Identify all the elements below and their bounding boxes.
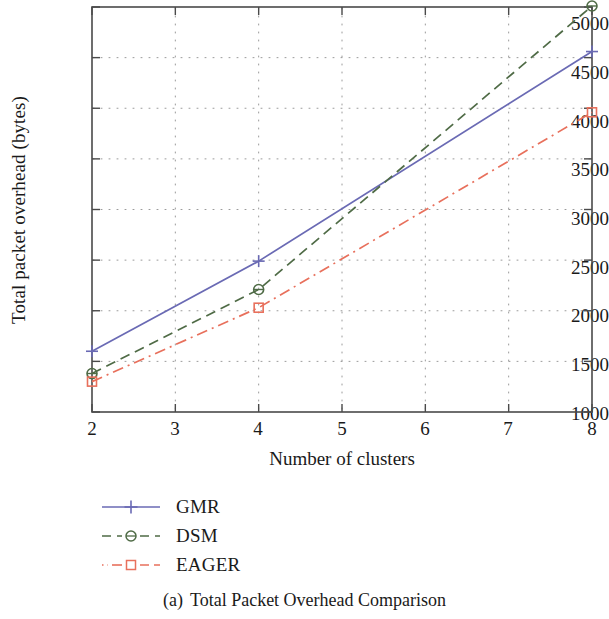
data-point-marker: [254, 284, 264, 294]
legend-swatch-eager: [100, 555, 162, 575]
caption-text: Total Packet Overhead Comparison: [190, 590, 446, 610]
legend-item-gmr: GMR: [100, 492, 360, 521]
data-point-marker: [586, 46, 598, 58]
legend-item-eager: EAGER: [100, 550, 360, 579]
plot-area: [0, 0, 609, 440]
legend-item-dsm: DSM: [100, 521, 360, 550]
caption-index: (a): [163, 590, 183, 610]
data-point-marker: [253, 255, 265, 267]
legend-label-eager: EAGER: [162, 555, 240, 575]
figure-total-packet-overhead: Total packet overhead (bytes) 5000 4500 …: [0, 0, 609, 619]
legend-label-gmr: GMR: [162, 497, 220, 517]
legend-label-dsm: DSM: [162, 526, 218, 546]
data-point-marker: [86, 345, 98, 357]
chart-legend: GMR DSM EAGER: [100, 492, 360, 579]
legend-swatch-gmr: [100, 497, 162, 517]
figure-caption: (a)Total Packet Overhead Comparison: [0, 588, 609, 612]
legend-swatch-dsm: [100, 526, 162, 546]
x-axis-title: Number of clusters: [92, 447, 592, 471]
